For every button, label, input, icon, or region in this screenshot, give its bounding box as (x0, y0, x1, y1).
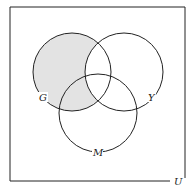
set-g-label: G (39, 92, 47, 103)
set-m-label: M (92, 147, 104, 158)
venn-diagram: G Y M U (0, 0, 193, 191)
universe-label: U (174, 176, 183, 187)
